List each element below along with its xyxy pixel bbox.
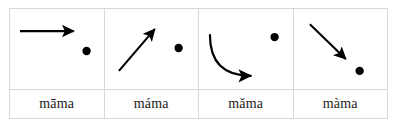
diagram-cell-tone-3 <box>199 9 294 90</box>
contour-dipping-curved-arrow <box>199 9 293 89</box>
label-cell-tone-4: màma <box>293 90 388 119</box>
label-row: māma máma mǎma màma <box>10 90 388 119</box>
contour-rising-arrow <box>105 9 199 89</box>
contour-level-arrow <box>10 9 104 89</box>
label-cell-tone-1: māma <box>10 90 105 119</box>
label-cell-tone-2: máma <box>104 90 199 119</box>
tone-dot <box>270 33 278 41</box>
tone-dot <box>355 67 363 75</box>
tone-contour-table: māma máma mǎma màma <box>9 8 388 119</box>
arrow-stroke <box>210 35 251 76</box>
arrow-stroke <box>309 24 345 59</box>
arrow-stroke <box>118 29 154 71</box>
tone-dot <box>82 47 90 55</box>
diagram-row <box>10 9 388 90</box>
diagram-cell-tone-2 <box>104 9 199 90</box>
diagram-cell-tone-4 <box>293 9 388 90</box>
label-cell-tone-3: mǎma <box>199 90 294 119</box>
tone-dot <box>174 44 182 52</box>
diagram-cell-tone-1 <box>10 9 105 90</box>
contour-falling-arrow <box>294 9 388 89</box>
